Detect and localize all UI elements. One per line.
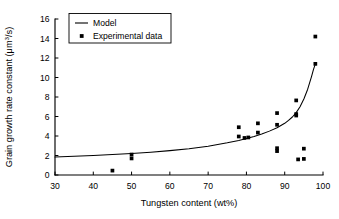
data-point <box>256 121 260 125</box>
legend-marker-swatch <box>80 34 84 38</box>
data-point <box>302 147 306 151</box>
data-point <box>296 158 300 162</box>
data-point <box>111 169 115 173</box>
y-tick-label: 8 <box>45 92 50 102</box>
data-point <box>130 153 134 157</box>
x-tick-label: 80 <box>242 181 252 191</box>
legend-label: Experimental data <box>93 31 162 41</box>
chart-canvas: 30405060708090100 0246810121416 Tungsten… <box>0 0 339 219</box>
data-point <box>243 136 247 140</box>
model-curve-series <box>55 64 315 157</box>
y-tick-label: 6 <box>45 112 50 122</box>
data-point <box>275 123 279 127</box>
data-point <box>275 146 279 150</box>
data-point <box>275 111 279 115</box>
data-point <box>237 135 241 139</box>
data-point <box>237 125 241 129</box>
y-tick-label: 4 <box>45 131 50 141</box>
data-point <box>302 157 306 161</box>
legend-label: Model <box>93 18 116 28</box>
chart-legend: ModelExperimental data <box>69 14 171 44</box>
y-tick-label: 16 <box>40 14 50 24</box>
y-tick-label: 14 <box>40 34 50 44</box>
experimental-data-series <box>111 35 318 173</box>
data-point <box>246 136 250 140</box>
data-point <box>130 157 134 161</box>
x-axis-title: Tungsten content (wt%) <box>141 198 238 208</box>
data-point <box>313 62 317 66</box>
x-tick-label: 50 <box>127 181 137 191</box>
y-tick-label: 0 <box>45 170 50 180</box>
y-tick-label: 10 <box>40 73 50 83</box>
data-point <box>294 99 298 103</box>
y-tick-label: 2 <box>45 151 50 161</box>
grain-growth-chart: 30405060708090100 0246810121416 Tungsten… <box>0 0 339 219</box>
model-curve <box>55 64 315 157</box>
x-tick-label: 60 <box>165 181 175 191</box>
data-point <box>256 131 260 135</box>
x-tick-label: 100 <box>316 181 331 191</box>
x-tick-label: 40 <box>89 181 99 191</box>
x-tick-label: 70 <box>203 181 213 191</box>
y-tick-label: 12 <box>40 53 50 63</box>
data-point <box>313 35 317 39</box>
y-axis-ticks: 0246810121416 <box>40 14 58 180</box>
x-tick-label: 30 <box>50 181 60 191</box>
x-tick-label: 90 <box>280 181 290 191</box>
data-point <box>294 112 298 116</box>
y-axis-title: Grain growth rate constant (μm3/s) <box>3 27 14 168</box>
